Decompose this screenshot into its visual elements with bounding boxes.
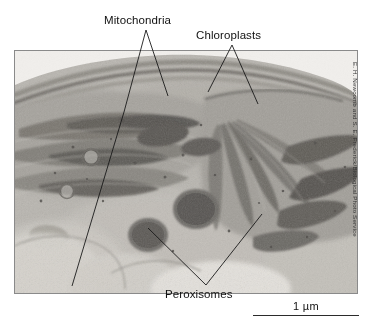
callout-label-chloroplasts: Chloroplasts [196,29,261,42]
callout-label-peroxisomes: Peroxisomes [165,288,233,301]
micrograph-frame [14,50,358,294]
scale-bar-line [253,315,359,316]
scale-bar-label: 1 µm [253,300,359,312]
photo-credit: E. H. Newcomb and S. E. Frederick/Biolog… [350,62,360,282]
callout-label-mitochondria: Mitochondria [104,14,171,27]
scale-bar: 1 µm [253,300,359,316]
electron-micrograph-image [15,51,357,293]
figure-root: Mitochondria Chloroplasts Peroxisomes 1 … [0,0,383,327]
